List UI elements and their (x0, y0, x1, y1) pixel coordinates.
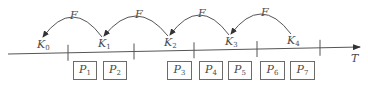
packet-box-p6: P6 (260, 61, 285, 80)
packet-box-p5: P5 (228, 61, 252, 80)
key-label-k0: K0 (37, 39, 50, 52)
packet-box-p7: P7 (290, 61, 315, 80)
arc-label-f: F (70, 10, 78, 21)
packet-label: P7 (297, 64, 309, 77)
time-axis (8, 47, 360, 54)
packet-box-p1: P1 (73, 61, 97, 80)
arc-label-f: F (198, 8, 206, 19)
key-label-k1: K1 (98, 38, 111, 51)
key-derivation-arcs (43, 14, 291, 37)
key-label-k2: K2 (164, 37, 177, 50)
packet-label: P6 (267, 64, 279, 77)
packet-box-p4: P4 (199, 61, 223, 80)
packet-box-p2: P2 (103, 61, 127, 80)
packet-label: P5 (234, 64, 246, 77)
key-label-k3: K3 (225, 36, 238, 49)
packet-label: P1 (79, 64, 91, 77)
packet-label: P4 (205, 64, 217, 77)
key-chain-timeline-diagram: K0K1K2K3K4 FFFF P1P2P3P4P5P6P7 T (0, 0, 368, 89)
packet-box-p3: P3 (167, 61, 192, 80)
key-label-k4: K4 (287, 35, 300, 48)
packet-label: P3 (174, 64, 186, 77)
arc-label-f: F (261, 7, 269, 18)
packet-label: P2 (109, 64, 121, 77)
arc-label-f: F (135, 9, 143, 20)
axis-label-t: T (351, 53, 358, 64)
